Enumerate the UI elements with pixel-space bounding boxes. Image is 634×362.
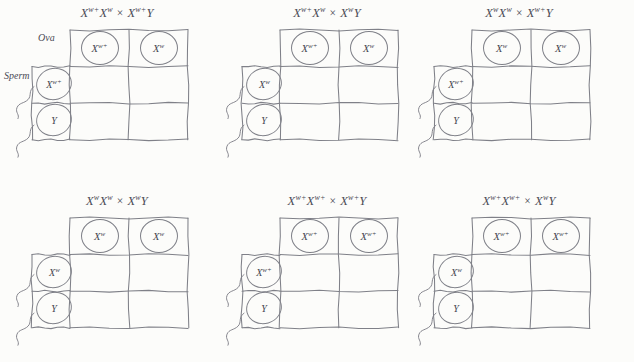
ova-allele-label: Xw (153, 43, 164, 54)
ova-allele-circle: Xw+ (81, 31, 119, 65)
cross-symbol: × (326, 195, 341, 207)
ova-gamete-cell-2: Xw (531, 30, 590, 66)
offspring-cell-r1-c2[interactable] (339, 255, 398, 291)
parent-two-genotype: XwY (535, 194, 556, 208)
sperm-column-bottom-edge (32, 327, 70, 329)
ova-allele-circle: Xw (483, 31, 521, 65)
punnett-square-6: Xw+Xw+×XwYXw+Xw+XwY (424, 194, 614, 354)
offspring-cell-r1-c1[interactable] (280, 67, 339, 103)
ova-gamete-cell-2: Xw (129, 30, 188, 66)
cross-symbol: × (326, 7, 341, 19)
sperm-column-bottom-edge (434, 139, 472, 141)
cross-title: XwXw×XwY (22, 194, 212, 209)
cross-title: Xw+Xw×Xw+Y (22, 6, 212, 21)
punnett-grid: Xw+Xw+Xw+Y (280, 218, 398, 328)
cross-title: Xw+Xw+×XwY (424, 194, 614, 209)
parent-two-genotype: Xw+Y (340, 194, 366, 208)
grid-hline-3 (70, 327, 188, 329)
sperm-allele-label: Xw+ (46, 78, 62, 89)
sperm-allele-label: Y (51, 303, 57, 314)
ova-allele-label: Xw (363, 43, 374, 54)
offspring-cell-r1-c1[interactable] (472, 67, 531, 103)
parent-one-genotype: XwXw (485, 6, 512, 20)
parent-one-genotype: Xw+Xw (80, 6, 112, 20)
cross-symbol: × (520, 195, 535, 207)
sperm-allele-label: Y (261, 115, 267, 126)
ova-allele-label: Xw+ (302, 43, 318, 54)
sperm-axis-label: Sperm (4, 70, 30, 81)
ova-allele-label: Xw+ (361, 231, 377, 242)
sperm-column-bottom-edge (434, 327, 472, 329)
offspring-cell-r2-c1[interactable] (280, 291, 339, 327)
cross-symbol: × (113, 195, 128, 207)
parent-two-genotype: Xw+Y (527, 6, 553, 20)
sperm-allele-label: Xw+ (256, 266, 272, 277)
ova-allele-circle: Xw (140, 219, 178, 253)
sperm-allele-label: Xw (259, 78, 270, 89)
sperm-tail-bottom (227, 125, 244, 157)
offspring-cell-r1-c2[interactable] (129, 255, 188, 291)
parent-two-genotype: XwY (340, 6, 361, 20)
ova-allele-label: Xw+ (302, 231, 318, 242)
offspring-cell-r1-c2[interactable] (339, 67, 398, 103)
offspring-cell-r1-c1[interactable] (472, 255, 531, 291)
ova-gamete-cell-2: Xw+ (339, 218, 398, 254)
punnett-grid: Xw+XwXw+Y (70, 30, 188, 140)
offspring-cell-r2-c2[interactable] (339, 103, 398, 139)
cross-title: Xw+Xw×XwY (232, 6, 422, 21)
offspring-cell-r1-c1[interactable] (70, 255, 129, 291)
sperm-allele-label: Xw (451, 266, 462, 277)
sperm-tail-bottom (17, 125, 34, 157)
grid-hline-3 (472, 139, 590, 141)
punnett-square-3: XwXw×Xw+YXwXwXw+Y (424, 6, 614, 166)
ova-allele-label: Xw+ (92, 43, 108, 54)
cross-title: XwXw×Xw+Y (424, 6, 614, 21)
ova-gamete-cell-1: Xw+ (280, 30, 339, 66)
ova-axis-label: Ova (38, 32, 55, 43)
offspring-cell-r2-c2[interactable] (339, 291, 398, 327)
offspring-cell-r1-c1[interactable] (70, 67, 129, 103)
offspring-cell-r2-c1[interactable] (70, 103, 129, 139)
ova-allele-circle: Xw (350, 31, 388, 65)
offspring-cell-r1-c2[interactable] (531, 67, 590, 103)
sperm-column-bottom-edge (32, 139, 70, 141)
punnett-grid: XwXwXw+Y (472, 30, 590, 140)
sperm-allele-label: Y (51, 115, 57, 126)
ova-gamete-cell-1: Xw+ (280, 218, 339, 254)
ova-allele-label: Xw+ (553, 231, 569, 242)
sperm-column-bottom-edge (242, 327, 280, 329)
ova-gamete-cell-1: Xw (472, 30, 531, 66)
parent-one-genotype: Xw+Xw (293, 6, 325, 20)
ova-gamete-cell-1: Xw+ (70, 30, 129, 66)
punnett-grid: Xw+Xw+XwY (472, 218, 590, 328)
punnett-square-4: XwXw×XwYXwXwXwY (22, 194, 212, 354)
offspring-cell-r1-c2[interactable] (531, 255, 590, 291)
offspring-cell-r1-c2[interactable] (129, 67, 188, 103)
offspring-cell-r2-c1[interactable] (70, 291, 129, 327)
sperm-allele-label: Y (261, 303, 267, 314)
punnett-grid: XwXwXwY (70, 218, 188, 328)
sperm-allele-label: Xw (49, 266, 60, 277)
ova-allele-circle: Xw (81, 219, 119, 253)
sperm-allele-label: Y (453, 115, 459, 126)
parent-one-genotype: Xw+Xw+ (482, 194, 520, 208)
offspring-cell-r2-c2[interactable] (129, 291, 188, 327)
offspring-cell-r2-c2[interactable] (129, 103, 188, 139)
sperm-allele-label: Xw+ (448, 78, 464, 89)
offspring-cell-r2-c1[interactable] (472, 291, 531, 327)
ova-gamete-cell-2: Xw+ (531, 218, 590, 254)
parent-two-genotype: XwY (127, 194, 148, 208)
punnett-square-2: Xw+Xw×XwYXw+XwXwY (232, 6, 422, 166)
offspring-cell-r2-c2[interactable] (531, 103, 590, 139)
ova-allele-circle: Xw+ (291, 219, 329, 253)
sperm-column-bottom-edge (242, 139, 280, 141)
ova-allele-circle: Xw (542, 31, 580, 65)
punnett-square-5: Xw+Xw+×Xw+YXw+Xw+Xw+Y (232, 194, 422, 354)
offspring-cell-r1-c1[interactable] (280, 255, 339, 291)
ova-gamete-cell-2: Xw (339, 30, 398, 66)
offspring-cell-r2-c1[interactable] (472, 103, 531, 139)
ova-allele-label: Xw (94, 231, 105, 242)
parent-two-genotype: Xw+Y (127, 6, 153, 20)
offspring-cell-r2-c2[interactable] (531, 291, 590, 327)
offspring-cell-r2-c1[interactable] (280, 103, 339, 139)
